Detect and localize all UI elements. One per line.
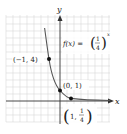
point-1-quarter [69,96,73,100]
function-label-denominator: 4 [96,44,100,51]
point-label-neg1-4: (−1, 4) [13,56,38,64]
point-label-1-quarter-x: 1, [70,113,77,121]
y-axis-label: y [56,5,62,14]
x-axis-label: x [115,97,120,106]
svg-text:(: ( [90,34,96,52]
function-label-exponent: x [107,31,110,37]
y-axis-arrow-icon [58,15,63,21]
point-label-1-quarter-den: 4 [80,116,84,123]
function-label: f(x) = ( 1 4 ) x [62,31,110,54]
function-label-prefix: f(x) = [62,40,83,48]
axes [6,15,114,124]
point-0-1 [58,89,62,93]
point-neg1-4 [47,57,51,61]
svg-text:): ) [101,34,107,52]
point-label-1-quarter: ( 1, 1 4 ) [63,104,97,126]
svg-text:(: ( [63,106,70,126]
point-label-0-1: (0, 1) [63,82,82,90]
exponential-graph: y x f(x) = ( 1 4 ) x (−1, 4) (0, 1) ( 1,… [0,0,127,134]
function-label-numerator: 1 [96,35,100,42]
svg-text:): ) [86,106,93,126]
point-label-1-quarter-num: 1 [80,107,84,114]
